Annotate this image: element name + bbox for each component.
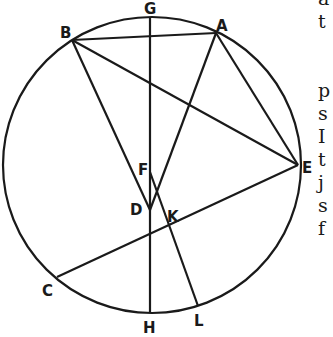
circle [3, 17, 301, 313]
side-text-line: t [318, 11, 326, 32]
label-F: F [138, 161, 148, 179]
geometry-diagram: G A B E C H L D K F [0, 0, 333, 337]
label-L: L [194, 312, 204, 330]
side-text-line: f [318, 218, 325, 239]
label-K: K [167, 208, 180, 226]
point-labels: G A B E C H L D K F [42, 0, 312, 337]
side-text-line: I [318, 126, 326, 147]
side-text-line: s [318, 103, 328, 124]
side-text-line: s [318, 195, 328, 216]
label-A: A [216, 17, 228, 35]
label-E: E [302, 159, 312, 177]
label-D: D [130, 201, 142, 219]
label-C: C [42, 282, 53, 300]
side-text-line: p [318, 80, 330, 101]
label-G: G [144, 0, 156, 18]
segments [57, 17, 298, 313]
segment-BD [72, 40, 150, 210]
segment-BA [72, 33, 216, 40]
side-text-line: j [318, 172, 324, 193]
segment-FL [150, 172, 198, 306]
segment-AD [150, 33, 216, 210]
side-text-line: t [318, 149, 326, 170]
label-H: H [143, 319, 156, 337]
segment-BE [72, 40, 298, 165]
label-B: B [60, 24, 71, 42]
side-text-line: a [318, 0, 329, 9]
